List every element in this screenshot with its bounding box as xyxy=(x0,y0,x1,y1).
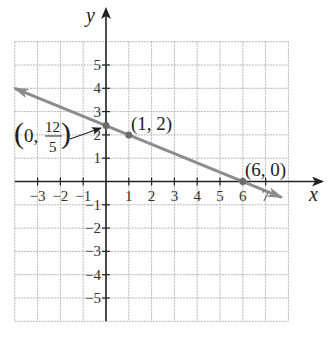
y-tick-label: 3 xyxy=(94,104,102,120)
point-label-1-2: (1, 2) xyxy=(131,113,172,135)
x-tick-label: 4 xyxy=(193,188,201,204)
y-tick-label: 1 xyxy=(94,150,102,166)
y-tick-label: 4 xyxy=(94,80,102,96)
y-tick-label: 5 xyxy=(94,57,102,73)
x-axis-label: x xyxy=(308,183,318,205)
y-tick-label: −5 xyxy=(85,290,101,306)
y-axis-label: y xyxy=(84,4,95,27)
x-tick-label: 2 xyxy=(148,188,156,204)
x-tick-label: 6 xyxy=(239,188,247,204)
fraction-denominator: 5 xyxy=(49,139,57,155)
x-tick-label: 3 xyxy=(171,188,179,204)
x-tick-label: −3 xyxy=(30,188,46,204)
y-tick-label: −3 xyxy=(85,243,101,259)
y-tick-label: −4 xyxy=(85,267,101,283)
close-paren: ) xyxy=(61,116,71,150)
fraction-numerator: 12 xyxy=(45,119,60,135)
open-paren: ( xyxy=(14,116,24,150)
point-label-6-0: (6, 0) xyxy=(245,159,286,181)
x-tick-label: 1 xyxy=(125,188,133,204)
y-tick-label: −1 xyxy=(85,197,101,213)
x-tick-label: −2 xyxy=(52,188,68,204)
coordinate-plane: −3−2−1123456754321−1−2−3−4−5 y x ( 0, 12… xyxy=(0,0,331,338)
x-tick-label: 5 xyxy=(216,188,224,204)
data-point xyxy=(103,122,110,129)
y-tick-label: −2 xyxy=(85,220,101,236)
point-label-zero: 0, xyxy=(24,125,38,146)
point-label-y-intercept: ( 0, 12 5 ) xyxy=(14,116,101,155)
